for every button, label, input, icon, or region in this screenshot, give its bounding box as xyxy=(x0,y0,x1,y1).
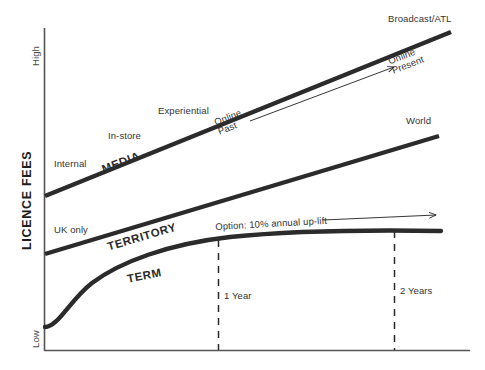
media-label-experiential: Experiential xyxy=(158,106,209,117)
media-label-broadcast-atl: Broadcast/ATL xyxy=(388,14,451,25)
online-progression-arrow xyxy=(250,67,394,121)
media-label-in-store: In-store xyxy=(108,131,141,142)
uplift-arrow xyxy=(323,215,436,220)
media-label-internal: Internal xyxy=(54,159,87,170)
y-axis-title: LICENCE FEES xyxy=(20,151,34,250)
term-curve xyxy=(45,231,441,327)
term-label-two-years: 2 Years xyxy=(400,286,432,297)
territory-label-uk-only: UK only xyxy=(54,225,88,236)
chart-canvas: LICENCE FEES High Low Internal In-store … xyxy=(0,0,485,370)
y-axis-low-label: Low xyxy=(31,330,42,348)
territory-label-world: World xyxy=(406,116,431,127)
y-axis-high-label: High xyxy=(31,46,42,66)
term-label-one-year: 1 Year xyxy=(224,291,252,302)
